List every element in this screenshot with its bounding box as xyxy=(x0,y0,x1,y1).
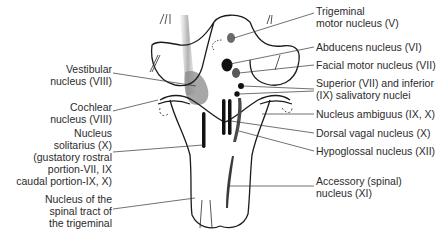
vestibular-shading xyxy=(184,71,208,105)
accessory-nucleus xyxy=(226,156,234,208)
label-nucleus-ambiguus: Nucleus ambiguus (IX, X) xyxy=(316,108,435,120)
hypoglossal-nucleus xyxy=(233,98,242,142)
nuclei xyxy=(202,33,244,208)
label-vestibular-nucleus: Vestibular nucleus (VIII) xyxy=(50,63,112,87)
trigeminal-motor-nucleus xyxy=(227,33,235,43)
inferior-salivatory-nucleus xyxy=(234,91,239,96)
facial-motor-nucleus xyxy=(232,68,240,78)
label-dorsal-vagal-nucleus: Dorsal vagal nucleus (X) xyxy=(316,127,430,139)
label-trigeminal-motor-nucleus: Trigeminal motor nucleus (V) xyxy=(316,5,399,29)
label-nucleus-solitarius: Nucleus solitarius (X) (gustatory rostra… xyxy=(16,127,112,187)
label-salivatory-nuclei: Superior (VII) and inferior (IX) salivat… xyxy=(316,77,434,101)
label-facial-motor-nucleus: Facial motor nucleus (VII) xyxy=(316,59,436,71)
dorsal-vagal-nucleus xyxy=(228,99,232,135)
leader-lines xyxy=(113,13,314,209)
label-accessory-nucleus: Accessory (spinal) nucleus (XI) xyxy=(316,175,402,199)
label-cochlear-nucleus: Cochlear nucleus (VIII) xyxy=(50,101,112,125)
nucleus-solitarius xyxy=(202,112,206,148)
label-hypoglossal-nucleus: Hypoglossal nucleus (XII) xyxy=(316,145,435,157)
nucleus-ambiguus xyxy=(222,99,226,135)
abducens-nucleus xyxy=(222,59,233,72)
label-spinal-trigeminal-nucleus: Nucleus of the spinal tract of the trige… xyxy=(45,193,112,229)
label-abducens-nucleus: Abducens nucleus (VI) xyxy=(316,41,422,53)
